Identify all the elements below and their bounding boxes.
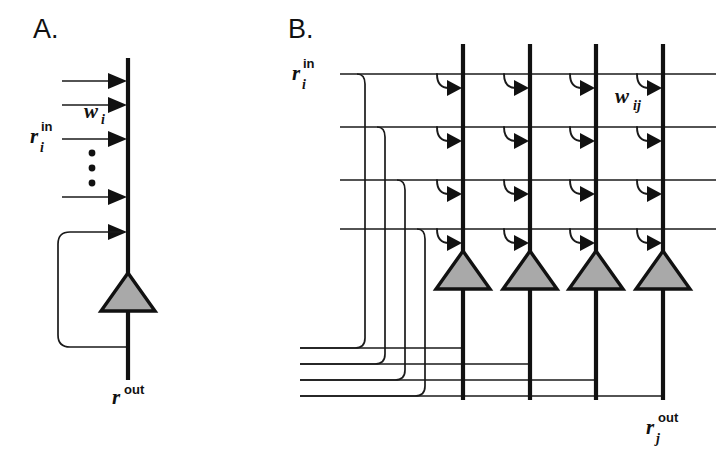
weight-label-base: w xyxy=(84,99,99,123)
panel-b-somata xyxy=(436,251,690,289)
feedback-riser xyxy=(300,180,405,380)
synapse-arrowhead xyxy=(447,133,462,149)
weight-label-base: w xyxy=(615,84,630,108)
output-label-superscript: out xyxy=(124,382,145,397)
panel-b-group: B. xyxy=(288,14,716,446)
figure-root: A. xyxy=(0,0,723,455)
input-label-base: r xyxy=(292,61,301,85)
output-label-base: r xyxy=(112,385,121,409)
panel-a-letter: A. xyxy=(33,14,59,44)
input-label-superscript: in xyxy=(41,119,53,134)
panel-b-axon-branches xyxy=(300,348,663,396)
soma xyxy=(436,251,490,289)
synapse-arrowhead xyxy=(514,80,529,96)
ellipsis-dot xyxy=(89,150,96,157)
synapse-arrowhead xyxy=(647,186,662,202)
synapse-arrowhead xyxy=(447,186,462,202)
panel-b-weight-label: w ij xyxy=(615,84,641,113)
circuit-diagram-svg: A. xyxy=(0,0,723,455)
soma xyxy=(569,251,623,289)
panel-b-dendrites xyxy=(463,44,663,270)
synapse-arrowhead xyxy=(514,186,529,202)
panel-b-loop-corners xyxy=(323,74,340,348)
synapse-arrowhead xyxy=(108,97,127,113)
feedback-riser xyxy=(300,127,385,364)
panel-a-output-label: r out xyxy=(112,382,145,409)
ellipsis-dot xyxy=(89,180,96,187)
output-label-subscript: j xyxy=(654,431,660,446)
synapse-arrowhead xyxy=(580,80,595,96)
synapse-arrowhead xyxy=(447,80,462,96)
panel-b-axons xyxy=(463,288,663,400)
input-label-superscript: in xyxy=(303,56,315,71)
synapse-arrowhead xyxy=(580,133,595,149)
panel-b-output-label: r j out xyxy=(646,410,679,446)
synapse-arrowhead xyxy=(580,186,595,202)
synapse-arrowhead xyxy=(647,80,662,96)
input-label-subscript: i xyxy=(302,77,306,92)
weight-label-subscript: i xyxy=(101,112,105,127)
synapse-arrowhead xyxy=(580,235,595,251)
panel-a-input-label: r i in xyxy=(30,119,53,155)
synapse-arrowhead xyxy=(108,189,127,205)
panel-b-feedback-returns xyxy=(290,74,340,348)
synapse-arrowhead xyxy=(514,133,529,149)
soma xyxy=(636,251,690,289)
panel-a-synapses xyxy=(108,73,127,240)
feedback-riser xyxy=(300,229,425,396)
synapse-arrowhead xyxy=(108,73,127,89)
panel-b-letter: B. xyxy=(288,14,314,44)
ellipsis-dot xyxy=(89,165,96,172)
feedback-riser xyxy=(300,74,365,348)
synapse-arrowhead xyxy=(447,235,462,251)
synapse-arrowhead xyxy=(647,235,662,251)
output-label-base: r xyxy=(646,415,655,439)
soma xyxy=(503,251,557,289)
weight-label-subscript: ij xyxy=(633,98,641,113)
panel-a-group: A. xyxy=(30,14,155,409)
input-label-subscript: i xyxy=(40,140,44,155)
panel-a-soma xyxy=(101,273,155,311)
panel-a-ellipsis xyxy=(89,150,96,187)
panel-a-weight-label: w i xyxy=(84,99,105,127)
synapse-arrowhead xyxy=(108,131,127,147)
input-label-base: r xyxy=(30,124,39,148)
synapse-arrowhead xyxy=(514,235,529,251)
output-label-superscript: out xyxy=(658,410,679,425)
synapse-arrowhead xyxy=(647,133,662,149)
